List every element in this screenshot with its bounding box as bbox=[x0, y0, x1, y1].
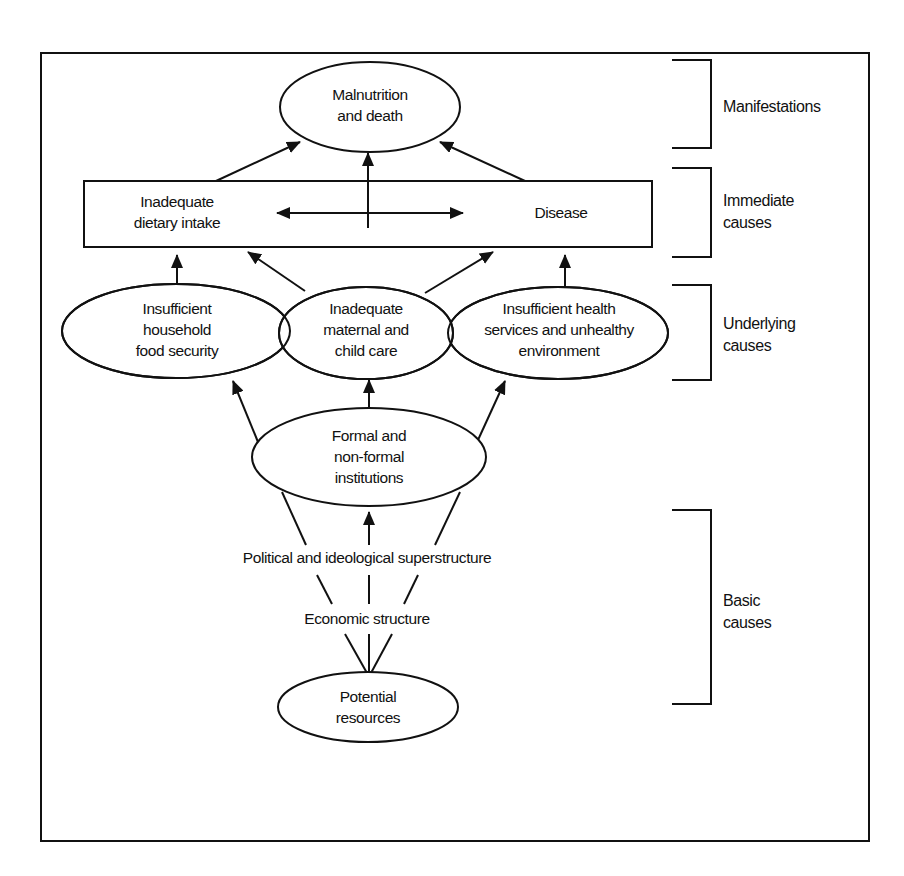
node-maternal-line3: child care bbox=[335, 342, 397, 359]
node-malnutrition-line2: and death bbox=[337, 107, 402, 124]
underlying-ellipse-labels: Insufficient household food security Ina… bbox=[136, 300, 635, 359]
node-institutions-line1: Formal and bbox=[332, 427, 406, 444]
node-malnutrition-and-death: Malnutrition and death bbox=[280, 62, 460, 152]
level-bracket-underlying: Underlying causes bbox=[672, 285, 796, 380]
level-label-underlying-1: Underlying bbox=[723, 315, 796, 332]
node-food-security-line3: food security bbox=[136, 342, 219, 359]
node-resources-line2: resources bbox=[336, 709, 401, 726]
node-food-security-line2: household bbox=[143, 321, 211, 338]
edge-maternal-to-dietary bbox=[248, 252, 305, 291]
node-maternal-line1: Inadequate bbox=[329, 300, 403, 317]
level-label-basic-2: causes bbox=[723, 614, 772, 631]
node-health-line3: environment bbox=[519, 342, 601, 359]
node-malnutrition-line1: Malnutrition bbox=[332, 86, 407, 103]
edge-maternal-to-disease bbox=[425, 252, 493, 293]
edge-institutions-to-health bbox=[478, 381, 505, 440]
node-disease: Disease bbox=[534, 204, 587, 221]
node-health-line2: services and unhealthy bbox=[484, 321, 634, 338]
edge-dietary-to-malnutrition bbox=[216, 142, 300, 181]
node-health-line1: Insufficient health bbox=[503, 300, 616, 317]
node-institutions-line3: institutions bbox=[335, 469, 404, 486]
node-resources-line1: Potential bbox=[340, 688, 397, 705]
level-label-underlying-2: causes bbox=[723, 337, 772, 354]
level-bracket-manifestations: Manifestations bbox=[672, 60, 821, 148]
node-potential-resources: Potential resources bbox=[278, 672, 458, 742]
level-label-basic-1: Basic bbox=[723, 592, 761, 609]
edge-institutions-to-food-security bbox=[233, 381, 258, 442]
node-dietary-intake-line1: Inadequate bbox=[140, 193, 214, 210]
level-label-immediate-1: Immediate bbox=[723, 192, 795, 209]
node-maternal-line2: maternal and bbox=[323, 321, 409, 338]
node-formal-nonformal-institutions: Formal and non-formal institutions bbox=[252, 408, 486, 506]
level-bracket-immediate: Immediate causes bbox=[672, 168, 795, 257]
basic-cause-lines bbox=[282, 492, 460, 673]
node-political-ideological-superstructure: Political and ideological superstructure bbox=[243, 549, 492, 566]
level-label-manifestations: Manifestations bbox=[723, 98, 821, 115]
level-label-immediate-2: causes bbox=[723, 214, 772, 231]
edge-disease-to-malnutrition bbox=[440, 142, 525, 181]
node-economic-structure: Economic structure bbox=[304, 610, 429, 627]
malnutrition-causes-diagram: Manifestations Immediate causes Underlyi… bbox=[0, 0, 904, 876]
node-dietary-intake-line2: dietary intake bbox=[134, 214, 221, 231]
node-institutions-line2: non-formal bbox=[334, 448, 404, 465]
node-food-security-line1: Insufficient bbox=[142, 300, 212, 317]
level-bracket-basic: Basic causes bbox=[672, 510, 772, 704]
